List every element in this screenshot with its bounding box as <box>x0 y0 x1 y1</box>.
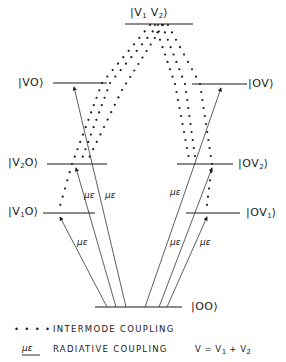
level-label-ov2: |OV2⟩ <box>238 157 268 171</box>
legend-intermode-text: INTERMODE COUPLING <box>53 324 175 334</box>
legend-equation: V = V1 + V2 <box>195 344 251 356</box>
level-label-ground: |OO⟩ <box>191 300 218 313</box>
energy-level-diagram: |V1 V2⟩ |VO⟩ |OV⟩ |V2O⟩ |OV2⟩ |V1O⟩ |OV1… <box>0 0 286 362</box>
level-label-ov1: |OV1⟩ <box>246 206 276 220</box>
legend-radiative-symbol: με <box>22 343 33 353</box>
radiative-label-v2o: με <box>84 190 95 200</box>
legend-radiative-text: RADIATIVE COUPLING <box>53 344 168 354</box>
level-label-v1v2: |V1 V2⟩ <box>130 6 168 20</box>
energy-levels <box>43 24 247 307</box>
arrow-to-ov <box>145 88 221 307</box>
level-label-ov: |OV⟩ <box>248 77 274 90</box>
intermode-dots <box>59 24 213 206</box>
level-label-v2o: |V2O⟩ <box>8 156 39 170</box>
radiative-label-vo: με <box>105 190 116 200</box>
radiative-label-ov2: με <box>170 237 181 247</box>
diagram-graphics <box>0 0 286 362</box>
level-label-vo: |VO⟩ <box>18 76 44 89</box>
arrow-to-vo <box>74 87 126 307</box>
arrow-to-v1o <box>60 217 107 307</box>
radiative-label-ov: με <box>170 187 181 197</box>
radiative-label-v1o: με <box>77 237 88 247</box>
arrow-to-ov1 <box>167 217 207 307</box>
legend-intermode-symbol: • • • • <box>14 324 51 334</box>
level-label-v1o: |V1O⟩ <box>8 205 39 219</box>
radiative-label-ov1: με <box>200 237 211 247</box>
